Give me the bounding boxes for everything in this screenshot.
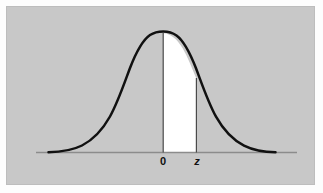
- shaded-region-0-to-z: [163, 33, 196, 152]
- normal-curve-figure: 0 z: [0, 0, 323, 193]
- bell-curve-path: [49, 31, 276, 152]
- axis-label-z: z: [187, 156, 207, 167]
- axis-label-zero: 0: [153, 156, 173, 167]
